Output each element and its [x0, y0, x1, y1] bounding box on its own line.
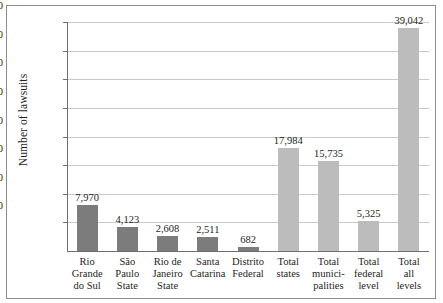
y-axis-tick-label: 10,000 [0, 173, 3, 183]
gridline [67, 165, 429, 166]
x-axis-category-label: Totalalllevels [383, 256, 435, 293]
y-axis-title: Number of lawsuits [17, 40, 29, 200]
gridline [67, 108, 429, 109]
bar-value-label: 15,735 [302, 148, 354, 159]
bar-value-label: 2,511 [182, 224, 234, 235]
y-axis-tick-label: 40,000 [0, 1, 3, 11]
y-axis-tick-label: 15,000 [0, 144, 3, 154]
figure-frame: Number of lawsuits 40,00035,00030,00025,… [6, 5, 436, 299]
plot-area: 7,9704,1232,6082,51168217,98415,7355,325… [67, 22, 429, 251]
bar[interactable] [117, 227, 138, 251]
y-axis-tick-label: 35,000 [0, 30, 3, 40]
bar[interactable] [278, 148, 299, 251]
chart-canvas: Number of lawsuits 40,00035,00030,00025,… [7, 6, 435, 298]
bar-value-label: 7,970 [61, 192, 113, 203]
x-axis-line [67, 251, 429, 252]
bar[interactable] [238, 247, 259, 251]
bar[interactable] [318, 161, 339, 251]
gridline [67, 51, 429, 52]
y-axis-tick-labels: 40,00035,00030,00025,00020,00015,00010,0… [0, 6, 3, 236]
bar[interactable] [197, 237, 218, 251]
bar[interactable] [358, 221, 379, 251]
gridline [67, 79, 429, 80]
y-axis-tick-label: 30,000 [0, 58, 3, 68]
bar-value-label: 5,325 [343, 208, 395, 219]
bar[interactable] [157, 236, 178, 251]
bar-value-label: 39,042 [383, 15, 435, 26]
bar-value-label: 682 [222, 234, 274, 245]
bar[interactable] [77, 205, 98, 251]
gridline [67, 22, 429, 23]
y-axis-line [67, 22, 68, 252]
bar[interactable] [398, 28, 419, 252]
y-axis-tick-label: 5,000 [0, 201, 3, 211]
y-axis-tick-label: 20,000 [0, 116, 3, 126]
bar-value-label: 17,984 [262, 135, 314, 146]
gridline [67, 137, 429, 138]
x-axis-category-labels: RioGrandedo SulSãoPauloStateRio deJaneir… [67, 256, 429, 300]
y-axis-tick-label: 25,000 [0, 87, 3, 97]
gridline [67, 194, 429, 195]
